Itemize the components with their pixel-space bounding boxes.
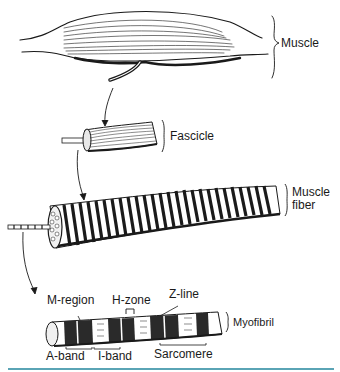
label-fascicle: Fascicle	[170, 130, 214, 143]
arrow-fascicle-to-fiber	[77, 150, 86, 200]
muscle-hierarchy-illustration	[0, 0, 340, 372]
label-m-region: M-region	[47, 294, 94, 307]
label-h-zone: H-zone	[112, 294, 151, 307]
label-z-line: Z-line	[169, 288, 199, 301]
label-muscle: Muscle	[281, 37, 319, 50]
label-muscle-fiber-line2: fiber	[292, 199, 315, 212]
arrow-muscle-to-fascicle	[102, 88, 113, 126]
myofibril-drawing	[46, 306, 228, 349]
muscle-fiber-drawing	[8, 184, 287, 248]
bottom-divider	[8, 368, 334, 370]
muscle-drawing	[20, 12, 279, 81]
label-i-band: I-band	[98, 350, 132, 363]
label-myofibril: Myofibril	[233, 316, 274, 329]
arrow-fiber-to-myofibril	[23, 232, 37, 294]
fascicle-drawing	[62, 120, 164, 152]
label-sarcomere: Sarcomere	[154, 348, 213, 361]
label-a-band: A-band	[46, 350, 85, 363]
